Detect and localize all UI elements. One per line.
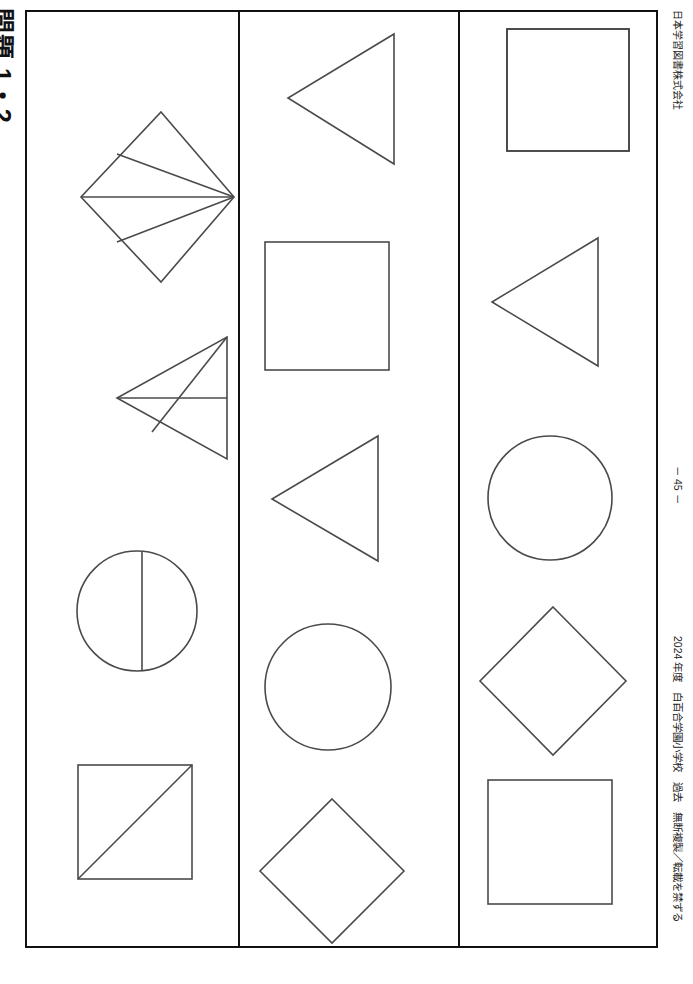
shape-diamond-with-radiating-lines: [73, 107, 238, 287]
page-number: － 45 －: [671, 466, 686, 504]
worksheet-column-1: [27, 12, 238, 946]
shape-circle: [485, 433, 617, 565]
publisher-credit: 日本学習図書株式会社: [671, 10, 686, 110]
shape-square-bottom: [485, 777, 615, 907]
shape-square: [262, 239, 392, 373]
shape-circle: [262, 621, 397, 756]
shape-left-triangle-with-internal-lines: [113, 332, 235, 464]
shape-left-triangle-small: [268, 432, 384, 565]
worksheet-frame: [25, 10, 658, 948]
shape-diamond: [474, 603, 630, 759]
worksheet-column-3: [458, 12, 656, 946]
shape-diamond: [250, 795, 408, 947]
shape-square-top: [504, 26, 632, 154]
shape-circle-with-vertical-chord: [73, 547, 203, 677]
shape-square-with-diagonal: [74, 762, 196, 882]
worksheet-columns: [27, 12, 656, 946]
copyright-notice: 2024 年度 白百合学園小学校 過去 無断複製／転載を禁ずる: [671, 636, 686, 922]
worksheet-column-2: [238, 12, 458, 946]
page-title: 問題 1・2: [0, 8, 22, 124]
shape-left-triangle: [488, 234, 604, 370]
shape-left-triangle: [284, 30, 400, 168]
